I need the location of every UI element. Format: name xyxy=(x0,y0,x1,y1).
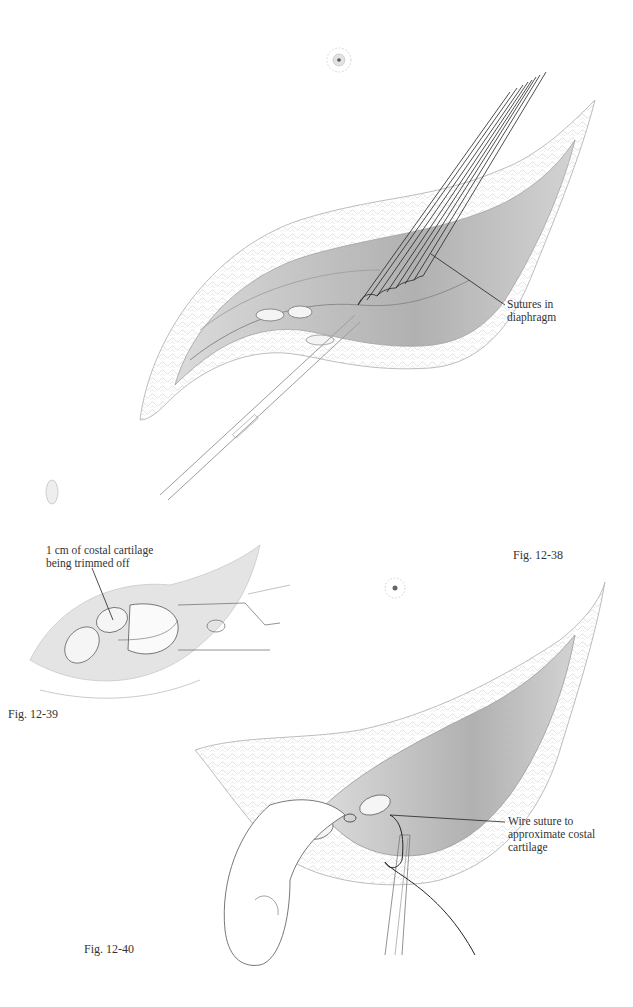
label-wire-suture: Wire suture to approximate costal cartil… xyxy=(508,815,595,854)
umbilicus-mark xyxy=(327,48,351,72)
caption-fig-12-39: Fig. 12-39 xyxy=(8,707,58,722)
label-line: diaphragm xyxy=(507,311,556,324)
label-costal-cartilage-trimmed: 1 cm of costal cartilage being trimmed o… xyxy=(46,544,153,570)
label-sutures-in-diaphragm: Sutures in diaphragm xyxy=(507,298,556,324)
small-mark xyxy=(46,480,58,504)
label-line: approximate costal xyxy=(508,828,595,841)
label-line: being trimmed off xyxy=(46,557,153,570)
label-line: Wire suture to xyxy=(508,815,595,828)
fig-12-38-drawing xyxy=(140,48,595,500)
label-line: cartilage xyxy=(508,841,595,854)
caption-fig-12-38: Fig. 12-38 xyxy=(513,548,563,563)
label-line: Sutures in xyxy=(507,298,556,311)
umbilicus-mark-2 xyxy=(385,578,405,598)
caption-fig-12-40: Fig. 12-40 xyxy=(84,942,134,957)
fig-12-40-drawing xyxy=(195,578,605,965)
surgical-illustrations xyxy=(0,0,633,1007)
label-line: 1 cm of costal cartilage xyxy=(46,544,153,557)
